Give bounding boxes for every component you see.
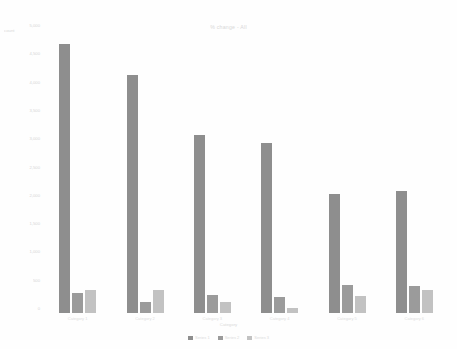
bar-group: Category 1 [59,30,96,313]
x-axis-tick-label: Category 5 [324,316,370,321]
x-axis-tick-label: Category 4 [257,316,303,321]
x-axis-tick-label: Category 3 [189,316,235,321]
bar[interactable] [140,302,151,313]
legend-swatch-icon [188,336,193,340]
bar[interactable] [287,308,298,313]
legend-swatch-icon [218,336,223,340]
y-axis-tick-label: 1,000 [30,249,40,254]
bar[interactable] [396,191,407,313]
bar[interactable] [342,285,353,313]
x-axis-tick-label: Category 6 [391,316,437,321]
legend-label: Series 2 [225,335,240,340]
legend-entry[interactable]: Series 3 [247,335,269,340]
bar[interactable] [194,135,205,313]
bar[interactable] [355,296,366,313]
bar[interactable] [59,44,70,313]
plot-area: 05001,0001,5002,0002,5003,0003,5004,0004… [44,30,448,313]
y-axis-tick-label: 0 [38,306,40,311]
bar-group: Category 3 [194,30,231,313]
bar-group: Category 4 [261,30,298,313]
y-axis-tick-label: 5,000 [30,23,40,28]
bar-group: Category 6 [396,30,433,313]
bar[interactable] [329,194,340,313]
y-axis-tick-label: 4,500 [30,51,40,56]
legend-entry[interactable]: Series 2 [218,335,240,340]
bar[interactable] [409,286,420,313]
y-axis-tick-label: 2,000 [30,192,40,197]
y-axis-tick-label: 500 [33,277,40,282]
bar-group: Category 2 [127,30,164,313]
x-axis-title: Category [0,322,457,327]
y-axis-tick-label: 1,500 [30,221,40,226]
bar[interactable] [220,302,231,313]
bar-group: Category 5 [329,30,366,313]
legend-swatch-icon [247,336,252,340]
bar[interactable] [127,75,138,313]
y-axis-tick-label: 4,000 [30,79,40,84]
bar[interactable] [153,290,164,313]
bar[interactable] [274,297,285,313]
legend-label: Series 3 [254,335,269,340]
bar[interactable] [72,293,83,313]
chart-legend: Series 1Series 2Series 3 [0,335,457,340]
chart-figure: % change - All count 05001,0001,5002,000… [0,0,457,349]
y-axis-title: count [4,28,15,33]
bar[interactable] [85,290,96,313]
y-axis-tick-label: 3,500 [30,107,40,112]
y-axis-tick-label: 3,000 [30,136,40,141]
bar[interactable] [261,143,272,313]
legend-entry[interactable]: Series 1 [188,335,210,340]
y-axis-tick-label: 2,500 [30,164,40,169]
bar[interactable] [422,290,433,313]
x-axis-tick-label: Category 2 [122,316,168,321]
bar[interactable] [207,295,218,313]
legend-label: Series 1 [195,335,210,340]
x-axis-tick-label: Category 1 [55,316,101,321]
